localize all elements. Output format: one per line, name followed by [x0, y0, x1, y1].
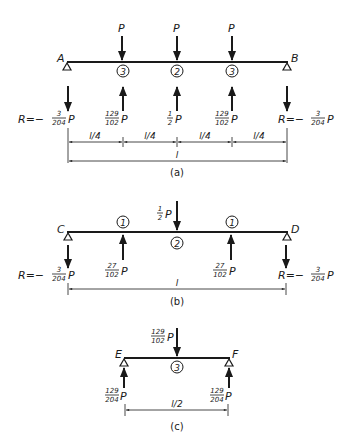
svg-text:P: P: [175, 113, 182, 126]
load-label-3: P: [228, 22, 235, 35]
svg-text:102: 102: [151, 337, 165, 345]
svg-text:27: 27: [108, 262, 117, 270]
svg-text:P: P: [68, 269, 75, 282]
force-label-1-b: 27 102 P: [105, 262, 128, 279]
svg-text:R=−: R=−: [18, 113, 44, 126]
dim-label: l/4: [89, 131, 101, 141]
svg-text:3: 3: [316, 110, 320, 118]
support-label-e: E: [115, 348, 122, 361]
reaction-label-left-b: R=− 3 204 P: [18, 266, 75, 283]
dim-label: l/4: [199, 131, 211, 141]
support-label-c: C: [57, 223, 65, 236]
svg-text:129: 129: [151, 328, 165, 336]
total-dim-label: l: [176, 150, 179, 160]
node-label: 3: [229, 67, 235, 77]
dim-label: l/4: [253, 131, 265, 141]
panel-caption-b: (b): [170, 296, 184, 307]
support-d-triangle-icon: [283, 233, 291, 240]
panel-c: E F 129 102 P 3 129 204 P 129 204 P: [105, 328, 239, 432]
load-label-1: P: [118, 22, 125, 35]
dim-label: l/4: [144, 131, 156, 141]
svg-text:P: P: [165, 208, 172, 221]
support-b-triangle-icon: [283, 63, 291, 70]
svg-text:204: 204: [105, 396, 118, 404]
svg-text:1: 1: [168, 110, 172, 118]
svg-text:204: 204: [311, 119, 324, 127]
node-label: 3: [174, 363, 180, 373]
svg-text:P: P: [121, 265, 128, 278]
svg-text:P: P: [167, 331, 174, 344]
force-label-1-a: 129 102 P: [105, 110, 128, 127]
svg-text:204: 204: [210, 396, 223, 404]
svg-text:P: P: [121, 113, 128, 126]
node-label: 2: [174, 239, 180, 249]
svg-text:P: P: [225, 390, 232, 403]
panel-caption-c: (c): [170, 421, 183, 432]
svg-text:3: 3: [57, 110, 61, 118]
svg-text:129: 129: [210, 387, 224, 395]
svg-text:P: P: [327, 113, 334, 126]
center-load-label-b: 1 2 P: [157, 205, 172, 222]
reaction-label-right-c: 129 204 P: [210, 387, 232, 404]
svg-text:102: 102: [105, 119, 119, 127]
svg-text:2: 2: [158, 214, 163, 222]
svg-text:129: 129: [105, 110, 119, 118]
svg-text:P: P: [229, 265, 236, 278]
svg-text:204: 204: [52, 275, 65, 283]
support-label-b: B: [291, 52, 299, 65]
panel-caption-a: (a): [170, 167, 184, 178]
svg-text:P: P: [231, 113, 238, 126]
reaction-label-right-b: R=− 3 204 P: [278, 266, 334, 283]
force-label-3-a: 129 102 P: [215, 110, 238, 127]
svg-text:3: 3: [316, 266, 320, 274]
reaction-label-left-a: R=− 3 204 P: [18, 110, 75, 127]
total-dim-label: l: [176, 278, 179, 288]
svg-text:129: 129: [105, 387, 119, 395]
svg-text:102: 102: [213, 271, 227, 279]
total-dim-label: l/2: [171, 399, 183, 409]
force-label-2-b: 27 102 P: [213, 262, 236, 279]
node-label: 1: [120, 218, 126, 228]
panel-b: C D 1 2 P 1 2 1 R=− 3 204 P 27: [18, 201, 334, 307]
svg-text:102: 102: [215, 119, 229, 127]
svg-text:2: 2: [168, 119, 173, 127]
svg-text:3: 3: [57, 266, 61, 274]
load-label-2: P: [173, 22, 180, 35]
support-label-d: D: [291, 223, 299, 236]
node-label: 3: [120, 67, 126, 77]
node-label: 1: [229, 218, 235, 228]
reaction-label-left-c: 129 204 P: [105, 387, 127, 404]
svg-text:1: 1: [158, 205, 162, 213]
center-load-label-c: 129 102 P: [151, 328, 174, 345]
panel-a: A B P P P 3 2 3 R=− 3 204 P 12: [18, 22, 334, 178]
force-label-2-a: 1 2 P: [167, 110, 182, 127]
svg-text:129: 129: [215, 110, 229, 118]
svg-text:R=−: R=−: [278, 269, 304, 282]
support-label-a: A: [56, 52, 65, 65]
svg-text:204: 204: [311, 275, 324, 283]
support-label-f: F: [232, 348, 239, 361]
svg-text:P: P: [327, 269, 334, 282]
svg-text:R=−: R=−: [278, 113, 304, 126]
svg-text:204: 204: [52, 119, 65, 127]
svg-text:27: 27: [216, 262, 225, 270]
svg-text:R=−: R=−: [18, 269, 44, 282]
svg-text:P: P: [68, 113, 75, 126]
support-c-triangle-icon: [64, 233, 72, 240]
reaction-label-right-a: R=− 3 204 P: [278, 110, 334, 127]
svg-text:P: P: [120, 390, 127, 403]
node-label: 2: [174, 67, 180, 77]
beam-diagram: A B P P P 3 2 3 R=− 3 204 P 12: [0, 0, 350, 438]
svg-text:102: 102: [105, 271, 119, 279]
